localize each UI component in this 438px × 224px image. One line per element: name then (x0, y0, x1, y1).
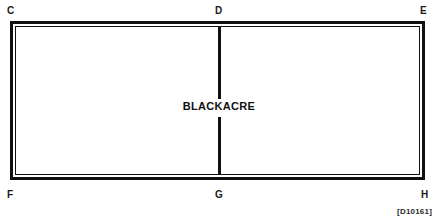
vertex-label-c: C (7, 6, 14, 16)
division-line-lower-segment (218, 117, 221, 175)
figure-reference-code: [D10161] (397, 207, 432, 216)
vertex-label-f: F (7, 190, 13, 200)
parcel-name-text: BLACKACRE (178, 100, 260, 113)
vertex-label-e: E (420, 6, 427, 16)
plat-diagram-figure: C D E F G H BLACKACRE [D10161] (0, 0, 438, 224)
vertex-label-h: H (421, 190, 428, 200)
vertex-label-g: G (215, 190, 223, 200)
parcel-name: BLACKACRE (0, 100, 438, 113)
vertex-label-d: D (215, 6, 222, 16)
division-line-upper-segment (218, 27, 221, 99)
